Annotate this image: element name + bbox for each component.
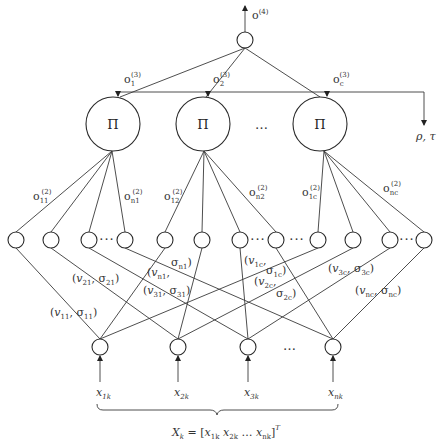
output-label: o(4) [252,8,269,22]
o2-label-n2: on2(2) [249,184,268,201]
input-layer: x1k x2k x3k … xnk [92,338,343,401]
o2-label-n1: on1(2) [124,188,143,205]
neural-network-diagram: o(4) ρ, τ o1(3) o2(3) oc(3) Π Π … Π [0,0,441,447]
o2-label-12: o12(2) [164,188,183,205]
pi-symbol: Π [197,117,208,132]
parameter-labels: (v11, σ11) (v21, σ21) (vn1, σn1) (v31, σ… [50,254,401,321]
o2-label-nc: onc(2) [383,180,401,197]
membership-node [382,232,398,248]
input-label-2: x2k [174,386,189,401]
param-label-n1: (vn1, [147,266,170,281]
param-label-1c: (v1c, [244,254,266,269]
output-layer: o(4) [237,6,269,48]
input-label-1: x1k [96,386,111,401]
pi-symbol: Π [314,117,325,132]
param-label-nc: (vnc, σnc) [355,284,401,299]
param-label-11: (v11, σ11) [50,306,97,321]
o2-label-11: o11(2) [33,188,52,205]
o2-label-1c: o1c(2) [302,184,320,201]
param-label-31: (v31, σ31) [143,284,190,299]
membership-node [157,232,173,248]
input-node-1 [92,339,108,355]
product-output-labels: o1(3) o2(3) oc(3) [124,71,350,88]
param-label-n1-sigma: σn1) [171,256,192,271]
input-node-3 [240,339,256,355]
membership-node [81,232,97,248]
input-node-2 [170,339,186,355]
product-ellipsis: … [255,117,269,132]
membership-node [268,232,284,248]
membership-node [416,232,432,248]
membership-node [117,232,133,248]
feedback-label: ρ, τ [415,130,436,143]
param-label-2c-sigma: σ2c) [276,287,296,302]
input-label-3: x3k [244,386,259,401]
product-layer: Π Π … Π [86,97,347,151]
membership-node [43,232,59,248]
output-node [237,32,253,48]
input-vector-equation: Xk = [x1k x2k … xnk]T [171,424,281,441]
input-ellipsis: … [283,338,297,353]
membership-node [310,232,326,248]
membership-node [8,232,24,248]
feedback-bus: ρ, τ [118,92,436,143]
input-vector-brace [97,404,338,415]
o3-label-c: oc(3) [333,71,350,88]
input-node-n [325,339,341,355]
o3-label-1: o1(3) [124,71,141,88]
param-label-3c: (v3c, σ3c) [328,262,374,277]
membership-ellipsis: ··· [250,232,265,247]
membership-node [345,232,361,248]
membership-node [194,232,210,248]
membership-to-product-links [16,151,424,232]
membership-ellipsis: ··· [99,232,114,247]
group-ellipsis: ··· [289,232,304,247]
param-label-21: (v21, σ21) [72,272,119,287]
membership-node [232,232,248,248]
param-label-2c: (v2c, [254,275,276,290]
pi-symbol: Π [107,117,118,132]
membership-output-labels: o11(2) on1(2) o12(2) on2(2) o1c(2) onc(2… [33,180,401,205]
o3-label-2: o2(3) [213,71,230,88]
input-label-n: xnk [328,386,343,401]
membership-ellipsis: ··· [399,232,414,247]
membership-layer: ··· ··· ··· ··· [8,232,432,248]
